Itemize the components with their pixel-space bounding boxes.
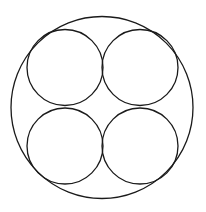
circles-diagram (0, 0, 206, 212)
inner-circle-top-left (27, 30, 103, 106)
inner-circle-top-right (102, 30, 178, 106)
outer-circle (11, 17, 193, 199)
inner-circle-bottom-right (102, 108, 178, 184)
inner-circle-bottom-left (27, 108, 103, 184)
